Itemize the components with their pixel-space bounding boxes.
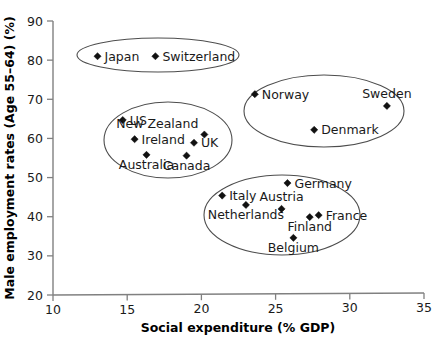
point-label-sweden: Sweden: [362, 86, 411, 101]
y-axis-ticks: 2030405060708090: [27, 14, 53, 303]
point-label-italy: Italy: [229, 188, 257, 203]
y-tick-label: 40: [27, 209, 43, 224]
x-tick-label: 10: [45, 302, 61, 317]
point-label-canada: Canada: [163, 158, 211, 173]
point-label-netherlands: Netherlands: [208, 207, 284, 222]
y-tick-label: 90: [27, 14, 43, 29]
x-tick-label: 20: [193, 301, 209, 316]
marker-switzerland: [152, 53, 159, 60]
marker-sweden: [383, 102, 390, 109]
marker-uk: [190, 139, 197, 146]
point-label-ireland: Ireland: [142, 132, 185, 147]
y-tick-label: 20: [27, 288, 43, 303]
point-label-switzerland: Switzerland: [162, 49, 235, 64]
y-tick-label: 80: [27, 53, 43, 68]
x-tick-label: 35: [416, 300, 432, 315]
x-tick-label: 30: [342, 300, 358, 315]
marker-germany: [284, 179, 291, 186]
x-axis-line: [53, 293, 424, 295]
point-label-uk: UK: [201, 135, 219, 150]
x-tick-label: 25: [268, 301, 284, 316]
point-label-denmark: Denmark: [321, 122, 379, 137]
x-axis-title: Social expenditure (% GDP): [141, 320, 335, 335]
x-axis-ticks: 101520253035: [45, 293, 432, 317]
marker-ireland: [131, 136, 138, 143]
marker-norway: [251, 91, 258, 98]
marker-denmark: [311, 126, 318, 133]
y-tick-label: 50: [27, 170, 43, 185]
scatter-plot: 2030405060708090 101520253035 JapanSwitz…: [0, 0, 442, 341]
point-label-new-zealand: New Zealand: [116, 116, 198, 131]
point-label-france: France: [326, 208, 368, 223]
marker-japan: [94, 53, 101, 60]
marker-france: [315, 212, 322, 219]
chart-container: 2030405060708090 101520253035 JapanSwitz…: [0, 0, 442, 341]
marker-italy: [219, 192, 226, 199]
point-label-belgium: Belgium: [268, 240, 319, 255]
point-label-austria: Austria: [259, 189, 303, 204]
y-tick-label: 30: [27, 248, 43, 263]
y-tick-label: 70: [27, 92, 43, 107]
x-tick-label: 15: [119, 302, 135, 317]
y-tick-label: 60: [27, 131, 43, 146]
y-axis-title: Male employment rates (Age 55–64) (%): [2, 16, 17, 299]
point-label-japan: Japan: [104, 49, 140, 64]
point-label-norway: Norway: [262, 87, 310, 102]
